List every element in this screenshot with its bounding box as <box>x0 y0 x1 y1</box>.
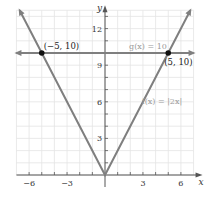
x-tick-label: −6 <box>23 179 35 188</box>
line-arrow-icon <box>189 50 196 56</box>
g-function-label: g(x) = 10 <box>129 42 167 51</box>
intersection-point-label: (5, 10) <box>164 57 192 67</box>
y-axis-arrow-icon <box>103 5 108 12</box>
intersection-point <box>39 50 45 56</box>
chart: −6−33636912xyg(x) = 10f(x) = |2x|(−5, 10… <box>0 0 207 202</box>
y-tick-label: 3 <box>97 134 102 143</box>
y-tick-label: 12 <box>92 25 102 34</box>
intersection-point-label: (−5, 10) <box>44 41 79 51</box>
y-axis-label: y <box>96 3 103 13</box>
x-tick-label: 3 <box>140 179 145 188</box>
x-tick-label: −3 <box>61 179 73 188</box>
intersection-point <box>165 50 171 56</box>
f-function-label: f(x) = |2x| <box>142 97 183 106</box>
x-axis-label: x <box>199 177 204 187</box>
y-tick-label: 6 <box>97 98 102 107</box>
line-arrow-icon <box>14 50 21 56</box>
x-tick-label: 6 <box>178 179 183 188</box>
y-tick-label: 9 <box>97 61 102 70</box>
